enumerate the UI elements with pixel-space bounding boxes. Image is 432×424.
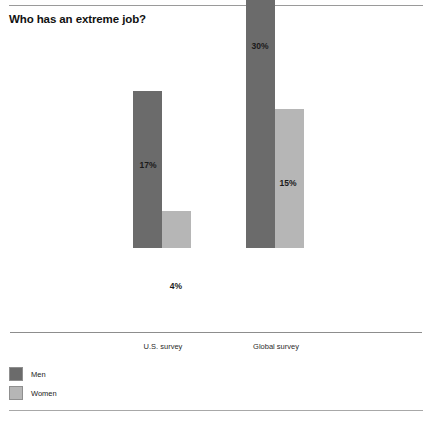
- legend-item-men[interactable]: Men: [9, 366, 57, 382]
- x-axis-line: [10, 332, 422, 333]
- bar-value-label-global-men: 30%: [241, 41, 279, 51]
- bar-value-label-us-women: 4%: [157, 281, 195, 291]
- chart-legend: Men Women: [9, 366, 57, 404]
- bar-value-label-us-men: 17%: [129, 160, 167, 170]
- bar-value-label-global-women: 15%: [269, 178, 307, 188]
- plot-area: 17% 4% 30% 15% U.S. survey Global survey: [0, 0, 432, 340]
- legend-swatch-women-icon: [9, 386, 23, 400]
- bar-group-global-survey: [246, 0, 306, 248]
- bar-group-us-survey: [133, 0, 193, 248]
- legend-label-men: Men: [31, 370, 46, 379]
- legend-swatch-men-icon: [9, 367, 23, 381]
- x-axis-tick-label-us-survey: U.S. survey: [123, 342, 203, 351]
- bottom-divider-rule: [9, 410, 423, 411]
- bar-global-survey-men[interactable]: [246, 0, 275, 248]
- x-axis-tick-label-global-survey: Global survey: [236, 342, 316, 351]
- chart-page: Who has an extreme job? 17% 4% 30% 15% U…: [0, 0, 432, 424]
- legend-item-women[interactable]: Women: [9, 385, 57, 401]
- legend-label-women: Women: [31, 389, 57, 398]
- bar-us-survey-women[interactable]: [162, 211, 191, 248]
